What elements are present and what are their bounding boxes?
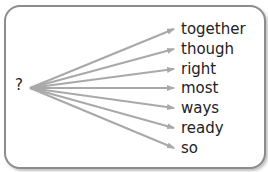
word-ways: ways xyxy=(181,99,219,117)
word-ready: ready xyxy=(181,119,224,137)
word-together: together xyxy=(181,20,246,38)
word-so: so xyxy=(181,139,198,157)
word-most: most xyxy=(181,79,219,97)
arrow-1 xyxy=(30,49,174,88)
arrow-5 xyxy=(30,88,174,128)
question-mark: ? xyxy=(15,76,23,94)
word-right: right xyxy=(181,60,216,78)
word-though: though xyxy=(181,40,234,58)
